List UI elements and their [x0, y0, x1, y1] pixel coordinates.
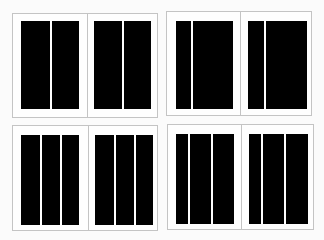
left-page-columns — [21, 135, 79, 225]
right-page-columns — [249, 134, 308, 224]
column-gutter — [211, 134, 213, 224]
column-gutter — [134, 135, 136, 225]
page-spine — [88, 126, 89, 230]
right-page-columns — [95, 135, 153, 225]
column-gutter — [264, 21, 266, 109]
column-gutter — [122, 21, 124, 109]
page-spine — [87, 14, 88, 117]
right-page-columns — [248, 21, 307, 109]
column-gutter — [40, 135, 42, 225]
column-gutter — [188, 134, 190, 224]
spread-narrow-wide-columns — [166, 11, 312, 116]
right-page-columns — [94, 21, 151, 109]
page-spine — [240, 12, 241, 115]
left-page-columns — [176, 134, 234, 224]
column-gutter — [60, 135, 62, 225]
column-gutter — [50, 21, 52, 109]
spread-three-equal-columns — [12, 125, 158, 231]
column-gutter — [191, 21, 193, 109]
left-page-columns — [176, 21, 233, 109]
column-gutter — [114, 135, 116, 225]
column-gutter — [284, 134, 286, 224]
left-page-columns — [21, 21, 79, 109]
spread-two-equal-columns — [12, 13, 158, 118]
column-gutter — [261, 134, 263, 224]
page-spine — [241, 125, 242, 229]
spread-narrow-plus-two-columns — [167, 124, 314, 230]
